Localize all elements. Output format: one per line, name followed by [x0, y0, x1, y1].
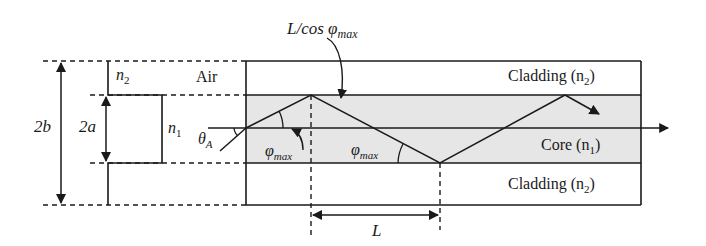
2a-label: 2a	[79, 117, 96, 136]
2b-label: 2b	[34, 117, 51, 136]
incident-ray	[220, 128, 246, 151]
theta-label: θA	[198, 130, 213, 150]
path-length-label: L/cos φmax	[286, 19, 358, 41]
L-label: L	[371, 221, 381, 240]
path-length-pointer-arrow	[327, 38, 342, 98]
fiber-diagram: L/cos φmax Air Cladding (n2) Core (n1) C…	[0, 0, 706, 246]
fiber-diagram-svg: L/cos φmax Air Cladding (n2) Core (n1) C…	[0, 0, 706, 246]
n1-label: n1	[168, 119, 182, 139]
n2-label: n2	[116, 66, 130, 86]
air-label: Air	[196, 68, 218, 85]
theta-arc	[234, 128, 238, 136]
cladding-bottom-label: Cladding (n2)	[508, 175, 595, 195]
cladding-top-label: Cladding (n2)	[508, 67, 595, 87]
